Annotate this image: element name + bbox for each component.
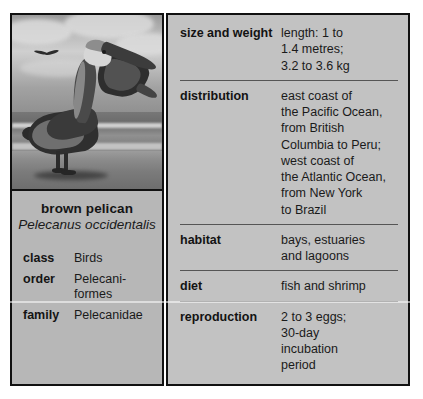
taxonomy-label-family: family xyxy=(23,308,74,322)
fact-value-habitat: bays, estuaries and lagoons xyxy=(281,232,365,265)
common-name: brown pelican xyxy=(18,201,156,216)
taxonomy-value-family: Pelecanidae xyxy=(74,308,143,323)
taxonomy-value-class: Birds xyxy=(74,251,102,266)
fact-value-distribution: east coast of the Pacific Ocean, from Br… xyxy=(281,88,386,218)
scientific-name: Pelecanus occidentalis xyxy=(18,217,156,233)
species-card-left-panel: brown pelican Pelecanus occidentalis cla… xyxy=(10,13,164,386)
flying-gull-icon xyxy=(34,48,60,56)
fact-label-diet: diet xyxy=(180,278,281,294)
fact-row-distribution: distribution east coast of the Pacific O… xyxy=(180,80,398,218)
fact-label-size-and-weight: size and weight xyxy=(180,25,281,41)
pelican-leg xyxy=(56,151,60,169)
fact-label-reproduction: reproduction xyxy=(180,309,281,325)
taxonomy-value-order: Pelecani- formes xyxy=(74,272,126,302)
taxonomy-label-class: class xyxy=(23,251,74,265)
fact-value-reproduction: 2 to 3 eggs; 30-day incubation period xyxy=(281,309,346,374)
photo-sand xyxy=(12,151,162,189)
taxonomy-row-family: family Pelecanidae xyxy=(23,308,156,323)
fact-value-diet: fish and shrimp xyxy=(281,278,366,294)
species-caption-block: brown pelican Pelecanus occidentalis cla… xyxy=(12,191,162,337)
taxonomy-list: class Birds order Pelecani- formes famil… xyxy=(18,251,156,323)
species-photo xyxy=(12,15,162,191)
pelican-eye xyxy=(102,50,106,54)
fact-row-size-and-weight: size and weight length: 1 to 1.4 metres;… xyxy=(180,25,398,74)
taxonomy-row-class: class Birds xyxy=(23,251,156,266)
fact-row-reproduction: reproduction 2 to 3 eggs; 30-day incubat… xyxy=(180,301,398,374)
species-facts-panel: size and weight length: 1 to 1.4 metres;… xyxy=(166,13,410,386)
fact-value-size-and-weight: length: 1 to 1.4 metres; 3.2 to 3.6 kg xyxy=(281,25,350,74)
fact-label-distribution: distribution xyxy=(180,88,281,104)
fact-label-habitat: habitat xyxy=(180,232,281,248)
fact-row-diet: diet fish and shrimp xyxy=(180,270,398,294)
fact-row-habitat: habitat bays, estuaries and lagoons xyxy=(180,224,398,265)
taxonomy-row-order: order Pelecani- formes xyxy=(23,272,156,302)
taxonomy-label-order: order xyxy=(23,272,74,286)
pelican-foot xyxy=(61,170,76,175)
